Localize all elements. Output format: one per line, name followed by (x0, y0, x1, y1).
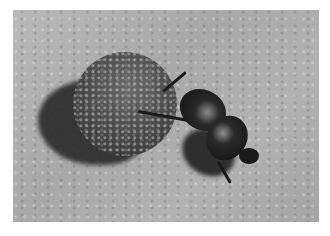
beetle-head (239, 148, 259, 164)
dung-ball (73, 52, 177, 156)
beetle-photo (13, 10, 319, 222)
